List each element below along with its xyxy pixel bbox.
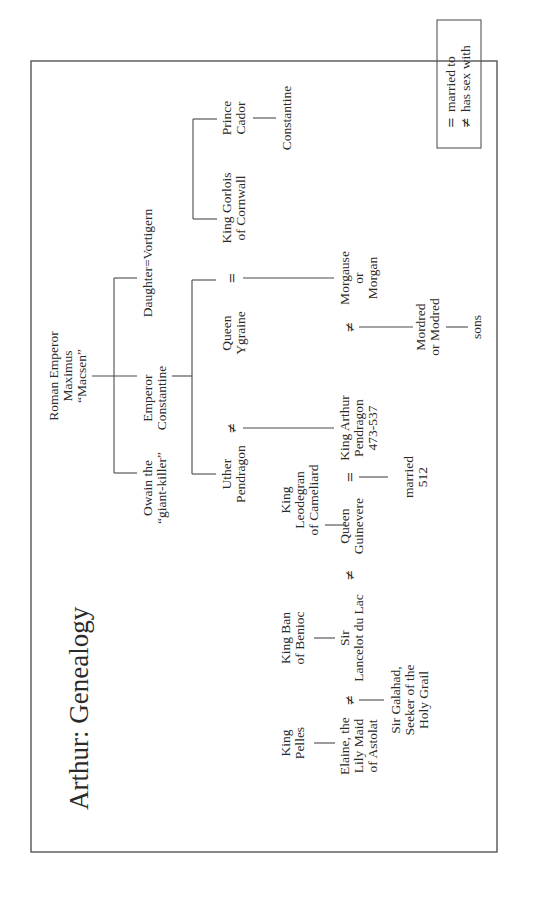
person-line: of Cornwall [233, 175, 248, 240]
legend-label-married: married to [443, 56, 458, 112]
legend-label-sex: has sex with [458, 45, 473, 112]
person-ban: King Ban of Benioc [278, 612, 307, 665]
legend-symbol-married: = [443, 117, 458, 128]
person-arthur: King Arthur Pendragon 473-537 [337, 395, 380, 461]
person-uther: Uther Pendragon [219, 445, 248, 503]
person-line: King Gorlois [219, 173, 234, 244]
person-line: Queen [219, 315, 234, 350]
person-line: Elaine, the [337, 717, 352, 775]
person-line: Maximus [60, 350, 75, 401]
person-line: “Macsen” [74, 349, 89, 403]
person-line: Constantine [279, 86, 294, 151]
person-line: King [278, 729, 293, 756]
person-line: King [278, 486, 293, 513]
person-line: of Astolat [365, 719, 380, 772]
person-daughter-vortigern: Daughter=Vortigern [140, 208, 155, 317]
person-line: sons [469, 315, 484, 339]
person-line: Queen [337, 508, 352, 543]
person-line: Uther [219, 458, 234, 489]
person-line: Constantine [154, 366, 169, 431]
genealogy-canvas-rotated: Arthur: Genealogy Roman Emperor Maximus … [0, 0, 543, 908]
person-ygraine: Queen Ygraine [219, 311, 248, 354]
person-line: Pelles [292, 727, 307, 759]
affair-symbol-guinevere-lancelot: ≠ [342, 570, 357, 581]
scanned-page: Arthur: Genealogy Roman Emperor Maximus … [0, 0, 543, 908]
person-line: Mordred [413, 303, 428, 350]
person-line: Holy Grail [416, 671, 431, 729]
person-line: Prince [219, 101, 234, 136]
person-line: Seeker of the [402, 664, 417, 735]
person-maximus: Roman Emperor Maximus “Macsen” [46, 331, 89, 421]
person-guinevere: Queen Guinevere [337, 498, 366, 554]
person-line: Cador [233, 101, 248, 134]
person-emperor-constantine: Emperor Constantine [140, 366, 169, 431]
person-gorlois: King Gorlois of Cornwall [219, 173, 248, 244]
page-title: Arthur: Genealogy [64, 606, 94, 810]
person-line: King Ban [278, 612, 293, 664]
affair-symbol-lancelot-elaine: ≠ [342, 695, 357, 706]
person-line: of Benioc [292, 612, 307, 665]
person-line: Guinevere [351, 498, 366, 554]
person-line: Morgan [365, 257, 380, 300]
person-line: Owain the [140, 460, 155, 516]
person-line: 473-537 [365, 405, 380, 450]
person-line: King Arthur [337, 395, 352, 461]
person-line: Pendragon [233, 445, 248, 503]
person-morgause: Morgause or Morgan [337, 251, 380, 305]
person-line: Lily Maid [351, 719, 366, 774]
person-line: or [351, 272, 366, 284]
person-constantine-son: Constantine [279, 86, 294, 151]
marriage-symbol-gorlois-ygraine: = [224, 273, 239, 284]
person-line: Morgause [337, 251, 352, 305]
person-line: Ygraine [233, 311, 248, 354]
marriage-symbol-arthur-guinevere: = [342, 472, 357, 483]
person-elaine: Elaine, the Lily Maid of Astolat [337, 717, 380, 775]
person-line: Sir [337, 630, 352, 646]
person-leodegran: King Leodegran of Cameliard [278, 464, 321, 535]
person-owain: Owain the “giant-killer” [140, 452, 169, 524]
person-line: Leodegran [292, 471, 307, 529]
person-sons: sons [469, 315, 484, 339]
person-line: Roman Emperor [46, 331, 61, 421]
note-line: married [401, 456, 416, 498]
person-galahad: Sir Galahad, Seeker of the Holy Grail [388, 664, 431, 735]
person-pelles: King Pelles [278, 727, 307, 759]
person-line: Lancelot du Lac [351, 594, 366, 682]
affair-symbol-morgause-arthur: ≠ [342, 322, 357, 333]
person-line: of Cameliard [306, 464, 321, 535]
person-line: or Modred [427, 298, 442, 356]
person-prince-cador: Prince Cador [219, 101, 248, 136]
affair-symbol-ygraine-uther: ≠ [224, 423, 239, 434]
person-line: “giant-killer” [154, 452, 169, 524]
legend-symbol-sex: ≠ [458, 117, 473, 128]
person-line: Pendragon [351, 399, 366, 457]
note-line: 512 [415, 467, 430, 487]
legend: = married to ≠ has sex with [437, 20, 481, 148]
person-line: Daughter=Vortigern [140, 208, 155, 317]
person-mordred: Mordred or Modred [413, 298, 442, 356]
genealogy-diagram: Arthur: Genealogy Roman Emperor Maximus … [0, 0, 543, 908]
married-note: married 512 [401, 456, 430, 498]
person-line: Emperor [140, 374, 155, 422]
person-lancelot: Sir Lancelot du Lac [337, 594, 366, 682]
page-frame [31, 61, 497, 852]
person-line: Sir Galahad, [388, 666, 403, 733]
